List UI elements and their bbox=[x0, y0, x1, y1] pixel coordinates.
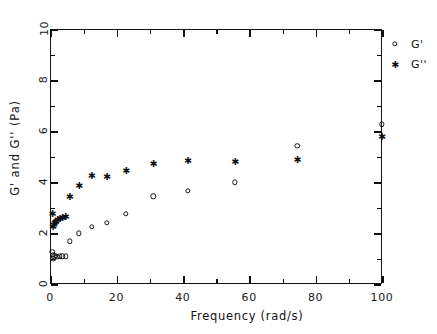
data-point-g-prime bbox=[295, 143, 300, 148]
x-tick-major bbox=[382, 276, 384, 283]
y-tick-label: 8 bbox=[26, 73, 44, 87]
y-tick-minor-right bbox=[377, 157, 381, 158]
x-tick-major-top bbox=[50, 30, 52, 37]
y-tick-label: 6 bbox=[26, 124, 44, 138]
x-tick-label: 40 bbox=[175, 291, 190, 304]
y-tick-minor bbox=[51, 208, 55, 209]
data-point-g-double-prime bbox=[231, 158, 238, 165]
y-tick-label: 10 bbox=[26, 22, 44, 36]
data-point-g-prime bbox=[123, 211, 128, 216]
chart-legend: G'G'' bbox=[392, 34, 437, 74]
data-point-g-prime bbox=[53, 253, 58, 258]
legend-item: G'' bbox=[392, 54, 437, 74]
legend-label: G' bbox=[411, 38, 424, 51]
data-point-g-double-prime bbox=[49, 210, 56, 217]
legend-marker-g-double-prime bbox=[392, 61, 399, 68]
data-point-g-prime bbox=[55, 254, 60, 259]
x-tick-minor-top bbox=[150, 30, 151, 34]
y-tick-label-text: 8 bbox=[38, 76, 51, 84]
data-point-g-double-prime bbox=[56, 215, 63, 222]
x-tick-minor-top bbox=[216, 30, 217, 34]
data-point-g-double-prime bbox=[49, 223, 56, 230]
x-tick-major-top bbox=[249, 30, 251, 37]
y-tick-minor bbox=[51, 259, 55, 260]
x-tick-label: 60 bbox=[242, 291, 257, 304]
data-point-g-prime bbox=[379, 122, 384, 127]
data-point-g-double-prime bbox=[184, 157, 191, 164]
data-point-g-prime bbox=[63, 253, 68, 258]
plot-area bbox=[50, 29, 382, 284]
data-point-g-double-prime bbox=[103, 173, 110, 180]
x-tick-minor-top bbox=[84, 30, 85, 34]
y-tick-label-text: 4 bbox=[38, 178, 51, 186]
y-axis-title: G' and G'' (Pa) bbox=[8, 100, 22, 196]
y-tick-major-right bbox=[374, 131, 381, 133]
x-tick-major-top bbox=[316, 30, 318, 37]
x-tick-major-top bbox=[382, 30, 384, 37]
y-tick-major-right bbox=[374, 182, 381, 184]
data-point-g-prime bbox=[151, 194, 156, 199]
legend-item: G' bbox=[392, 34, 437, 54]
data-point-g-prime bbox=[76, 231, 81, 236]
y-tick-major-right bbox=[374, 233, 381, 235]
data-point-g-double-prime bbox=[66, 193, 73, 200]
x-tick-minor bbox=[216, 279, 217, 283]
x-tick-minor bbox=[150, 279, 151, 283]
data-point-g-prime bbox=[60, 254, 65, 259]
data-point-g-double-prime bbox=[54, 216, 61, 223]
y-tick-minor bbox=[51, 55, 55, 56]
x-tick-major bbox=[50, 276, 52, 283]
data-point-g-prime bbox=[57, 253, 62, 258]
x-tick-major bbox=[316, 276, 318, 283]
y-tick-major bbox=[51, 233, 58, 235]
y-tick-minor bbox=[51, 157, 55, 158]
data-point-g-double-prime bbox=[75, 182, 82, 189]
x-axis-title: Frequency (rad/s) bbox=[191, 309, 304, 323]
data-point-g-double-prime bbox=[150, 160, 157, 167]
x-tick-minor bbox=[283, 279, 284, 283]
y-tick-major-right bbox=[374, 29, 381, 31]
x-tick-minor bbox=[349, 279, 350, 283]
x-tick-major bbox=[117, 276, 119, 283]
y-tick-label-text: 2 bbox=[38, 229, 51, 237]
data-point-g-prime bbox=[89, 224, 94, 229]
data-point-g-prime bbox=[232, 180, 237, 185]
data-point-g-double-prime bbox=[50, 221, 57, 228]
y-tick-minor-right bbox=[377, 55, 381, 56]
y-tick-major bbox=[51, 29, 58, 31]
data-point-g-double-prime bbox=[378, 133, 385, 140]
x-tick-label: 20 bbox=[109, 291, 124, 304]
legend-label: G'' bbox=[411, 58, 427, 71]
y-tick-label: 4 bbox=[26, 175, 44, 189]
x-tick-minor-top bbox=[349, 30, 350, 34]
x-tick-minor-top bbox=[283, 30, 284, 34]
y-tick-minor-right bbox=[377, 208, 381, 209]
data-point-g-prime bbox=[67, 238, 72, 243]
x-tick-major-top bbox=[117, 30, 119, 37]
y-tick-minor-right bbox=[377, 106, 381, 107]
data-point-g-prime bbox=[104, 220, 109, 225]
x-tick-label: 0 bbox=[46, 291, 54, 304]
y-tick-label: 0 bbox=[26, 277, 44, 291]
y-tick-major-right bbox=[374, 284, 381, 286]
x-tick-label: 80 bbox=[308, 291, 323, 304]
y-tick-label: 2 bbox=[26, 226, 44, 240]
data-point-g-double-prime bbox=[294, 156, 301, 163]
data-point-g-double-prime bbox=[88, 172, 95, 179]
y-tick-major bbox=[51, 131, 58, 133]
y-tick-minor-right bbox=[377, 259, 381, 260]
x-tick-major bbox=[249, 276, 251, 283]
legend-marker-g-prime bbox=[392, 41, 397, 46]
data-point-g-prime bbox=[50, 252, 55, 257]
data-point-g-double-prime bbox=[59, 214, 66, 221]
y-tick-major bbox=[51, 182, 58, 184]
data-point-g-double-prime bbox=[62, 213, 69, 220]
y-tick-label-text: 6 bbox=[38, 127, 51, 135]
data-point-g-double-prime bbox=[52, 218, 59, 225]
x-tick-label: 100 bbox=[371, 291, 394, 304]
y-tick-major bbox=[51, 80, 58, 82]
chart-screenshot: G' and G'' (Pa) 0246810 020406080100 Fre… bbox=[0, 0, 437, 334]
y-tick-label-text: 0 bbox=[38, 280, 51, 288]
x-tick-major-top bbox=[183, 30, 185, 37]
data-point-g-prime bbox=[49, 249, 54, 254]
